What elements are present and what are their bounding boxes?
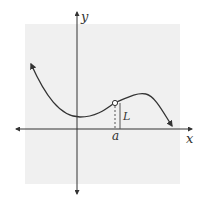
a-label: a xyxy=(112,129,119,143)
limit-graph: y x a L xyxy=(0,0,205,201)
hole-open-circle xyxy=(112,100,117,105)
L-label: L xyxy=(122,110,130,123)
grid-panel xyxy=(25,24,180,184)
y-axis-label: y xyxy=(80,9,89,24)
x-axis-label: x xyxy=(186,131,194,146)
